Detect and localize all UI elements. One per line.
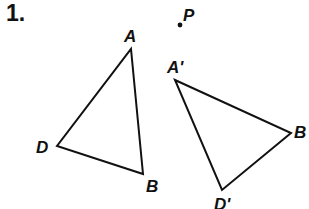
label-a: A [124, 28, 136, 45]
label-d-prime: D' [214, 196, 230, 209]
label-a-prime: A' [167, 59, 183, 76]
label-d: D [36, 139, 48, 156]
triangle-abd [57, 49, 143, 174]
diagram-canvas: 1. P A D B A' B D' [0, 0, 309, 209]
label-b-prime: B [294, 124, 306, 141]
point-p [178, 23, 183, 28]
label-p: P [183, 7, 194, 24]
label-b: B [146, 178, 158, 195]
triangle-a-prime-b-prime-d-prime [175, 80, 291, 190]
